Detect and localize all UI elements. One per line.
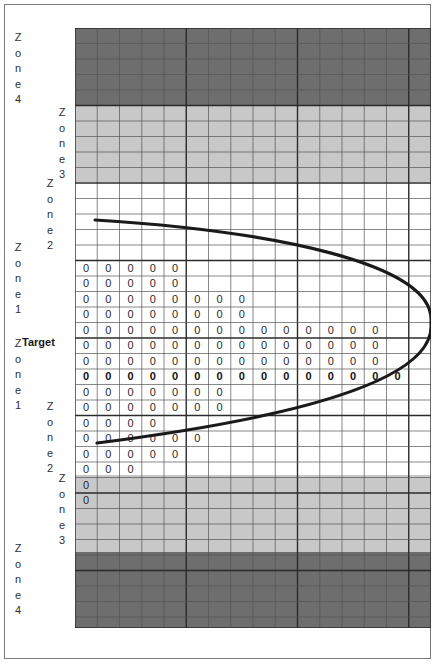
zone-label-top-zone2: Zone2: [40, 176, 60, 254]
zone-label-char: 2: [40, 238, 60, 254]
zone-label-char: n: [8, 271, 28, 287]
zone-label-char: 1: [8, 398, 28, 414]
zone-label-char: e: [8, 588, 28, 604]
zone-label-char: 4: [8, 92, 28, 108]
zone-label-char: o: [40, 192, 60, 208]
parabolic-curve: [75, 28, 431, 628]
zone-label-char: o: [8, 46, 28, 62]
zone-label-char: Z: [8, 30, 28, 46]
zone-label-char: e: [40, 446, 60, 462]
zone-label-char: o: [8, 256, 28, 272]
zone-label-char: Z: [40, 399, 60, 415]
zone-label-char: n: [40, 207, 60, 223]
zone-label-char: e: [52, 518, 72, 534]
zone-label-char: Z: [8, 541, 28, 557]
zone-label-char: Z: [40, 176, 60, 192]
zone-label-char: n: [8, 572, 28, 588]
zone-label-top-zone3: Zone3: [52, 105, 72, 183]
zone-label-char: Z: [8, 240, 28, 256]
zone-label-char: o: [52, 487, 72, 503]
zone-label-char: e: [8, 77, 28, 93]
zone-label-char: o: [8, 557, 28, 573]
target-row-label: Target: [22, 336, 55, 348]
zone-label-char: n: [52, 502, 72, 518]
zone-label-top-zone4: Zone4: [8, 30, 28, 108]
figure-page: Zone4Zone3Zone2Zone1Zone1Zone2Zone3Zone4…: [0, 0, 437, 668]
zone-label-bot-zone1: Zone1: [8, 336, 28, 414]
zone-label-top-zone1: Zone1: [8, 240, 28, 318]
zone-label-char: e: [40, 223, 60, 239]
zone-label-char: e: [52, 152, 72, 168]
zone-label-char: n: [40, 430, 60, 446]
zone-label-bot-zone2: Zone2: [40, 399, 60, 477]
zone-label-char: n: [52, 136, 72, 152]
zone-label-char: n: [8, 61, 28, 77]
parabola-path: [95, 220, 431, 443]
zone-label-char: o: [40, 415, 60, 431]
zone-grid: 0000000000000000000000000000000000000000…: [75, 28, 431, 628]
zone-label-char: 3: [52, 533, 72, 549]
zone-label-char: e: [8, 287, 28, 303]
zone-label-char: 4: [8, 603, 28, 619]
zone-label-char: 1: [8, 302, 28, 318]
zone-label-char: Z: [52, 471, 72, 487]
zone-label-char: o: [8, 352, 28, 368]
zone-label-char: o: [52, 121, 72, 137]
zone-label-bot-zone4: Zone4: [8, 541, 28, 619]
zone-label-char: e: [8, 383, 28, 399]
zone-label-bot-zone3: Zone3: [52, 471, 72, 549]
zone-label-char: Z: [52, 105, 72, 121]
zone-label-char: n: [8, 367, 28, 383]
